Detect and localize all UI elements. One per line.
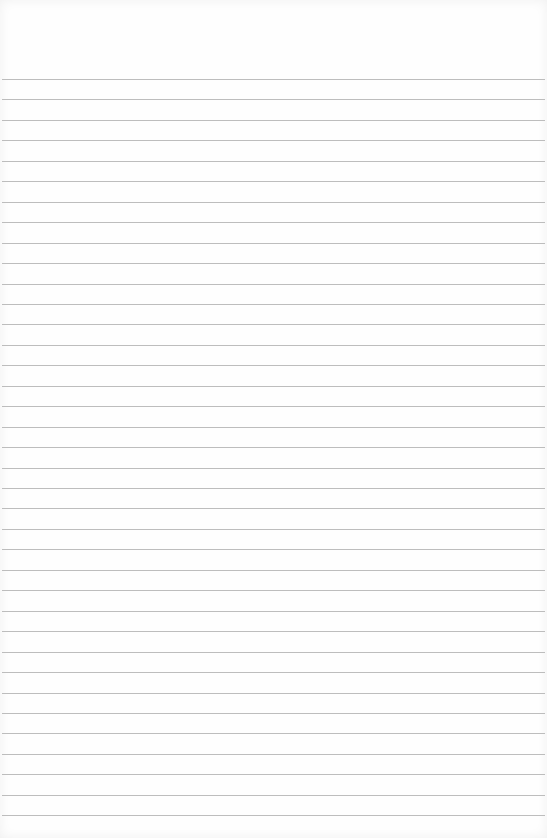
ruled-line (2, 733, 545, 734)
ruled-line (2, 324, 545, 325)
ruled-line (2, 611, 545, 612)
ruled-line (2, 754, 545, 755)
ruled-line (2, 406, 545, 407)
ruled-line (2, 713, 545, 714)
ruled-line (2, 79, 545, 80)
ruled-line (2, 590, 545, 591)
ruled-line (2, 365, 545, 366)
ruled-line (2, 549, 545, 550)
ruled-line (2, 284, 545, 285)
ruled-line (2, 202, 545, 203)
ruled-line (2, 120, 545, 121)
ruled-line (2, 815, 545, 816)
ruled-line (2, 508, 545, 509)
ruled-line (2, 345, 545, 346)
ruled-line (2, 570, 545, 571)
ruled-line (2, 181, 545, 182)
ruled-line (2, 795, 545, 796)
ruled-line (2, 427, 545, 428)
ruled-line (2, 631, 545, 632)
lined-paper (0, 0, 547, 838)
ruled-line (2, 672, 545, 673)
ruled-line (2, 222, 545, 223)
ruled-line (2, 243, 545, 244)
ruled-line (2, 447, 545, 448)
ruled-line (2, 140, 545, 141)
ruled-line (2, 386, 545, 387)
ruled-line (2, 693, 545, 694)
ruled-line (2, 488, 545, 489)
ruled-line (2, 468, 545, 469)
ruled-line (2, 304, 545, 305)
ruled-line (2, 99, 545, 100)
ruled-line (2, 529, 545, 530)
ruled-line (2, 652, 545, 653)
ruled-line (2, 161, 545, 162)
ruled-line (2, 263, 545, 264)
ruled-line (2, 774, 545, 775)
